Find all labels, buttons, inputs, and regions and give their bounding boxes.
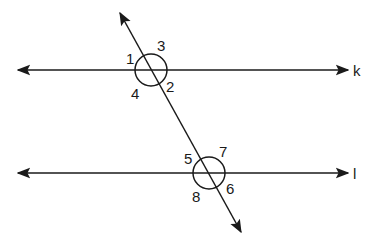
angle-6-label: 6 (226, 180, 234, 197)
angle-2-label: 2 (166, 78, 174, 95)
angle-3-label: 3 (157, 37, 165, 54)
angle-8-label: 8 (192, 188, 200, 205)
angle-5-label: 5 (184, 150, 192, 167)
angle-7-label: 7 (219, 143, 227, 160)
diagram-canvas: k l 1 3 2 4 5 7 6 8 (0, 0, 375, 250)
line-l-label: l (353, 165, 356, 182)
line-k-label: k (353, 62, 361, 79)
transversal-line (120, 13, 241, 232)
angle-1-label: 1 (126, 50, 134, 67)
angle-4-label: 4 (131, 85, 139, 102)
